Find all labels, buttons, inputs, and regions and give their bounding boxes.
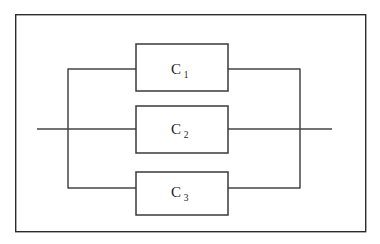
capacitor-label-c3: C bbox=[171, 184, 181, 200]
parallel-capacitor-diagram: C 1 C 2 C 3 bbox=[0, 0, 380, 244]
capacitor-box-c2 bbox=[136, 106, 228, 153]
capacitor-box-c1 bbox=[136, 44, 228, 91]
capacitor-label-c2: C bbox=[171, 121, 181, 137]
capacitor-subscript-c1: 1 bbox=[184, 70, 189, 80]
circuit-diagram-screen: C 1 C 2 C 3 bbox=[0, 0, 380, 244]
capacitor-subscript-c2: 2 bbox=[184, 130, 189, 140]
capacitor-subscript-c3: 3 bbox=[184, 193, 189, 203]
capacitor-label-c1: C bbox=[171, 61, 181, 77]
capacitor-box-c3 bbox=[136, 172, 228, 215]
